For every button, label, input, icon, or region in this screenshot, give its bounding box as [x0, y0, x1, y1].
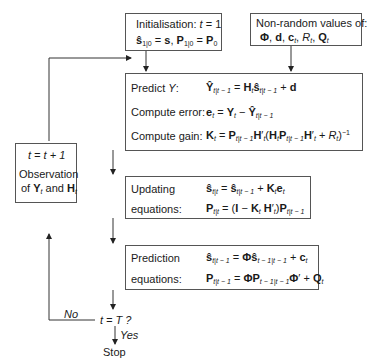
- prediction-state-equation: ŝt|t − 1 = Φŝt − 1|t − 1 + ct: [206, 252, 308, 263]
- increment-label: t = t + 1: [28, 150, 65, 161]
- compute-error-equation: et = Yt − Ŷt|t − 1: [206, 107, 273, 118]
- initialisation-box: Initialisation: t = 1 ŝ1|0 = s, P1|0 = P…: [125, 13, 222, 51]
- stop-label: Stop: [103, 347, 126, 358]
- predict-box: Predict Y: Ŷt|t − 1 = Htŝt|t − 1 + d Com…: [125, 73, 363, 151]
- yes-label: Yes: [120, 330, 138, 341]
- observation-label: Observation: [19, 169, 78, 180]
- decision-label: t = T ?: [100, 315, 132, 326]
- predict-y-label: Predict Y:: [131, 83, 179, 94]
- no-label: No: [64, 309, 78, 320]
- initialisation-title: Initialisation: t = 1: [136, 19, 221, 30]
- observation-vars: of Yt and Ht: [21, 183, 77, 194]
- initialisation-equation: ŝ1|0 = s, P1|0 = P0: [136, 35, 217, 46]
- updating-equations-box: Updating ŝt|t = ŝt|t − 1 + Ktet equation…: [125, 176, 311, 219]
- updating-covariance-equation: Pt|t = (I − Kt H′t)Pt|t − 1: [206, 203, 304, 214]
- prediction-equations-label: equations:: [131, 274, 182, 285]
- prediction-label: Prediction: [131, 253, 180, 264]
- nonrandom-title: Non-random values of:: [256, 18, 367, 29]
- prediction-equations-box: Prediction ŝt|t − 1 = Φŝt − 1|t − 1 + ct…: [125, 245, 319, 290]
- updating-equations-label: equations:: [131, 204, 182, 215]
- predict-y-equation: Ŷt|t − 1 = Htŝt|t − 1 + d: [206, 82, 296, 93]
- nonrandom-equation: Φ, d, ct, Rt, Qt: [260, 32, 329, 43]
- compute-gain-equation: Kt = Pt|t − 1H′t(HtPt|t − 1H′t + Rt)−1: [206, 130, 350, 141]
- observation-box: t = t + 1 Observation of Yt and Ht: [15, 143, 77, 203]
- updating-label: Updating: [131, 184, 175, 195]
- compute-gain-label: Compute gain:: [131, 131, 203, 142]
- nonrandom-values-box: Non-random values of: Φ, d, ct, Rt, Qt: [250, 13, 362, 46]
- updating-state-equation: ŝt|t = ŝt|t − 1 + Ktet: [206, 183, 285, 194]
- prediction-covariance-equation: Pt|t − 1 = ΦPt − 1|t − 1Φ′ + Qt: [206, 273, 323, 284]
- compute-error-label: Compute error:: [131, 107, 205, 118]
